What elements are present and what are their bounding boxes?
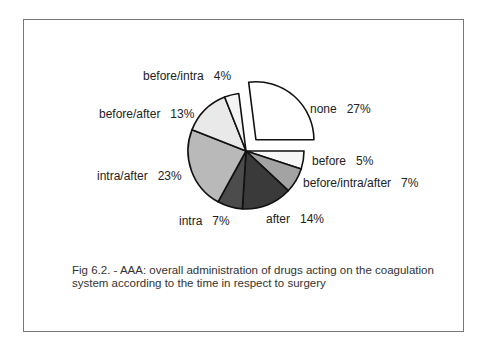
label-before-intra: before/intra 4% bbox=[143, 70, 231, 83]
label-intra: intra 7% bbox=[179, 215, 230, 228]
pie-chart bbox=[0, 0, 487, 349]
label-intra-after: intra/after 23% bbox=[97, 170, 182, 183]
label-before-after: before/after 13% bbox=[99, 108, 194, 121]
caption-line-1: Fig 6.2. - AAA: overall administration o… bbox=[72, 264, 462, 277]
caption-line-2: system according to the time in respect … bbox=[72, 277, 462, 290]
label-none: none 27% bbox=[310, 103, 371, 116]
figure-caption: Fig 6.2. - AAA: overall administration o… bbox=[72, 264, 462, 290]
label-before: before 5% bbox=[312, 155, 373, 168]
label-after: after 14% bbox=[266, 213, 324, 226]
label-before-intra-after: before/intra/after 7% bbox=[303, 177, 418, 190]
pie-slice-none bbox=[249, 82, 314, 140]
